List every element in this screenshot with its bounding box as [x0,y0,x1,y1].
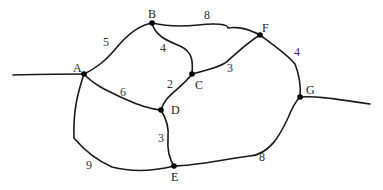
node-labels: A B C D E F G [73,7,315,184]
weight-F-G: 4 [294,45,300,59]
node-A [81,71,87,77]
node-G [297,94,303,100]
graph-diagram: A B C D E F G 5 8 4 3 2 6 3 9 4 8 [0,0,383,190]
weight-A-D: 6 [120,85,126,99]
edge-A-B [84,23,152,74]
node-label-C: C [195,78,203,92]
edge-B-F [152,23,260,35]
node-label-G: G [306,83,315,97]
edge-B-C [152,23,192,74]
edge-stub-right-G [300,97,370,104]
node-label-B: B [148,7,156,21]
weight-A-E: 9 [86,158,92,172]
node-label-F: F [262,21,269,35]
edges [13,23,370,170]
weight-E-G: 8 [259,150,265,164]
weight-A-B: 5 [103,35,109,49]
node-D [158,107,164,113]
node-label-D: D [171,103,180,117]
node-B [149,20,155,26]
weight-C-F: 3 [227,61,233,75]
node-C [189,71,195,77]
node-E [171,163,177,169]
edge-E-G [174,97,300,166]
node-label-E: E [171,170,178,184]
weight-B-C: 4 [160,41,166,55]
weight-C-D: 2 [167,77,173,91]
weight-B-F: 8 [204,8,210,22]
node-label-A: A [73,61,82,75]
weight-D-E: 3 [158,131,164,145]
edge-C-F [192,35,260,74]
